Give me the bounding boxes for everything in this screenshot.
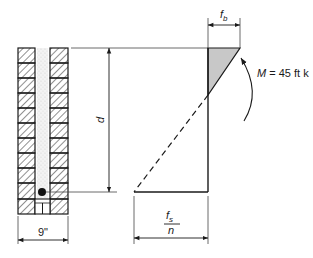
diagram-canvas: d 9" fb fs n M = 45 ft k bbox=[0, 0, 313, 258]
moment-arrow-icon bbox=[241, 58, 252, 121]
tension-dashed-line bbox=[134, 95, 208, 192]
wall-thickness-label: 9" bbox=[38, 226, 48, 238]
depth-label: d bbox=[94, 116, 106, 123]
compressive-stress-label: fb bbox=[220, 8, 228, 23]
right-brick-column bbox=[50, 48, 68, 214]
masonry-wall-section bbox=[18, 48, 68, 214]
compression-triangle bbox=[208, 48, 240, 95]
stress-distribution-diagram bbox=[134, 48, 240, 192]
rebar-icon bbox=[38, 188, 46, 196]
left-brick-column bbox=[18, 48, 35, 214]
modular-ratio-label: n bbox=[168, 224, 174, 236]
steel-stress-numerator: fs bbox=[166, 209, 173, 224]
moment-label: M = 45 ft k bbox=[257, 67, 309, 79]
